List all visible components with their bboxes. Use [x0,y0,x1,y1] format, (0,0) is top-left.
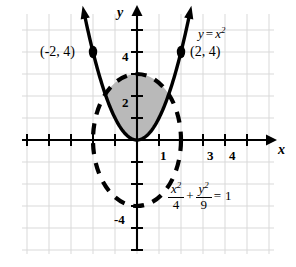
point-marker-left [89,46,97,58]
ellipse-term-y: y2 9 [196,182,212,213]
ellipse-rhs: 1 [223,188,234,203]
ellipse-y-denominator: 9 [196,198,212,213]
x-tick-label-1: 1 [160,149,167,162]
parabola-lhs: y [198,26,204,41]
parabola-exponent: 2 [221,25,225,35]
ellipse-equation-label: x2 4 + y2 9 =1 [168,182,234,213]
y-axis-label: y [117,6,123,20]
ellipse-equals-sign: = [212,188,223,203]
graph-figure: y x 4 2 -4 1 3 4 (-2, 4) (2, 4) y=x2 x2 … [0,0,296,267]
ellipse-y-numerator: y2 [196,182,212,198]
coordinate-plane [0,0,296,267]
y-tick-label-neg4: -4 [114,213,125,226]
parabola-equation-label: y=x2 [198,27,225,40]
y-tick-label-4: 4 [122,50,129,63]
ellipse-x-exponent: 2 [177,180,181,190]
ellipse-term-x: x2 4 [168,182,184,213]
x-tick-label-4: 4 [229,149,236,162]
ellipse-x-denominator: 4 [168,198,184,213]
ellipse-y-exponent: 2 [204,180,208,190]
point-label-right: (2, 4) [190,45,220,59]
point-label-left: (-2, 4) [40,45,75,59]
x-axis-label: x [278,143,285,157]
point-marker-right [177,46,185,58]
x-tick-label-3: 3 [207,149,214,162]
ellipse-x-numerator: x2 [168,182,184,198]
ellipse-plus-sign: + [184,188,195,203]
y-tick-label-2: 2 [122,96,129,109]
parabola-equals: = [204,26,215,41]
